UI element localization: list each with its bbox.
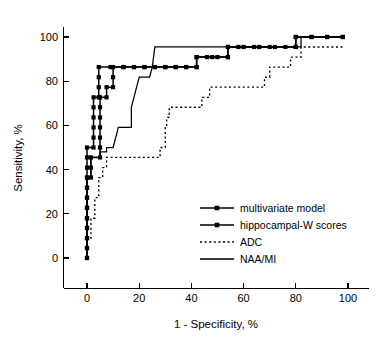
x-tick-label: 100 xyxy=(339,292,357,304)
legend-item-0[interactable]: multivariate model xyxy=(200,202,325,214)
series-marker-1 xyxy=(85,145,89,149)
y-tick-label: 0 xyxy=(52,252,58,264)
x-tick-label: 40 xyxy=(185,292,197,304)
series-marker-1 xyxy=(91,125,95,129)
series-marker-0 xyxy=(104,85,108,89)
series-marker-1 xyxy=(294,35,298,39)
series-marker-0 xyxy=(111,75,115,79)
legend-label-2: ADC xyxy=(240,236,263,248)
series-marker-1 xyxy=(210,55,214,59)
legend-marker-0 xyxy=(215,206,220,211)
series-marker-1 xyxy=(153,65,157,69)
legend-marker-1 xyxy=(215,223,220,228)
chart-legend: multivariate modelhippocampal-W scoresAD… xyxy=(200,202,347,265)
series-marker-0 xyxy=(98,105,102,109)
series-marker-1 xyxy=(132,65,136,69)
roc-chart: 020406080100 020406080100 1 - Specificit… xyxy=(0,0,392,340)
series-marker-1 xyxy=(226,55,230,59)
roc-plot-svg: 020406080100 020406080100 1 - Specificit… xyxy=(0,0,392,340)
legend-item-2[interactable]: ADC xyxy=(200,236,263,248)
legend-label-3: NAA/MI xyxy=(240,253,276,265)
x-tick-label: 80 xyxy=(290,292,302,304)
series-marker-1 xyxy=(121,65,125,69)
series-marker-0 xyxy=(98,115,102,119)
series-marker-1 xyxy=(91,115,95,119)
series-marker-1 xyxy=(195,65,199,69)
x-axis-title: 1 - Specificity, % xyxy=(174,318,258,330)
y-tick-label: 60 xyxy=(46,119,58,131)
series-marker-1 xyxy=(163,65,167,69)
y-tick-label: 100 xyxy=(40,31,58,43)
series-marker-1 xyxy=(97,65,101,69)
series-marker-0 xyxy=(98,125,102,129)
series-marker-1 xyxy=(91,135,95,139)
series-marker-1 xyxy=(97,75,101,79)
series-marker-1 xyxy=(184,65,188,69)
series-marker-1 xyxy=(91,105,95,109)
legend-item-1[interactable]: hippocampal-W scores xyxy=(200,219,347,231)
series-marker-1 xyxy=(142,65,146,69)
x-axis-ticks: 020406080100 xyxy=(84,283,357,304)
y-tick-label: 40 xyxy=(46,164,58,176)
y-axis-title: Sensitivity, % xyxy=(12,124,24,192)
series-marker-1 xyxy=(91,145,95,149)
series-marker-0 xyxy=(98,135,102,139)
x-tick-label: 20 xyxy=(133,292,145,304)
series-marker-1 xyxy=(108,65,112,69)
x-tick-label: 60 xyxy=(237,292,249,304)
series-marker-1 xyxy=(195,55,199,59)
legend-label-1: hippocampal-W scores xyxy=(240,219,347,231)
series-marker-1 xyxy=(85,155,89,159)
series-marker-1 xyxy=(91,95,95,99)
series-marker-0 xyxy=(98,145,102,149)
x-tick-label: 0 xyxy=(84,292,90,304)
legend-label-0: multivariate model xyxy=(240,202,325,214)
series-marker-1 xyxy=(97,95,101,99)
series-marker-0 xyxy=(111,85,115,89)
y-axis-ticks: 020406080100 xyxy=(40,31,69,264)
legend-item-3[interactable]: NAA/MI xyxy=(200,253,276,265)
series-marker-1 xyxy=(174,65,178,69)
series-marker-1 xyxy=(97,85,101,89)
series-marker-0 xyxy=(104,95,108,99)
series-marker-1 xyxy=(85,166,89,170)
y-tick-label: 80 xyxy=(46,75,58,87)
y-tick-label: 20 xyxy=(46,208,58,220)
